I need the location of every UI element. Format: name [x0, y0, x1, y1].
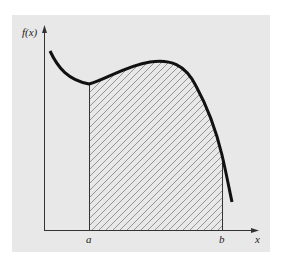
upper-limit-label: b [219, 234, 225, 245]
y-axis-arrow-icon [42, 25, 47, 33]
x-axis-label: x [255, 234, 260, 245]
y-axis-label: f(x) [22, 27, 37, 38]
lower-limit-label: a [86, 234, 92, 245]
integral-diagram [0, 0, 283, 262]
